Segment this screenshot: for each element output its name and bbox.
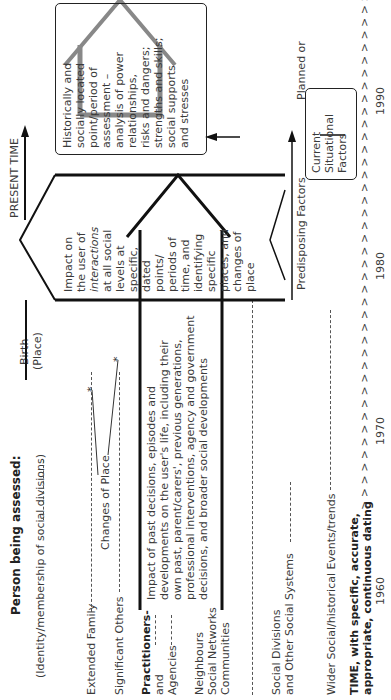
past-impact-line: Impact of past decisions, episodes and xyxy=(145,315,158,600)
interactions-line: points/ xyxy=(153,227,166,292)
assessment-line: Historically and xyxy=(61,10,74,148)
assessment-line: strengths and skills; xyxy=(152,10,165,148)
interactions-line: specific xyxy=(205,227,218,292)
year-1990: 1990 xyxy=(374,87,387,115)
year-1960: 1960 xyxy=(374,577,387,605)
assessment-line: analysis of power xyxy=(113,10,126,148)
interactions-line: dated xyxy=(140,227,153,292)
interactions-line: at all social xyxy=(101,227,114,292)
year-1980: 1980 xyxy=(374,252,387,280)
year-1970: 1970 xyxy=(374,417,387,445)
assessment-line: socially located xyxy=(74,10,87,148)
interactions-line: specific, xyxy=(127,227,140,292)
past-impact-line: own past, parent/carers', previous gener… xyxy=(171,315,184,600)
assessment-line: point/period of xyxy=(87,10,100,148)
interactions-line: time, and xyxy=(179,227,192,292)
situational-line: Factors xyxy=(336,95,349,173)
situational-line: Situational xyxy=(323,95,336,173)
interactions-text: Impact on the user of interactions at al… xyxy=(62,227,257,292)
interactions-line: places, and xyxy=(218,227,231,292)
svg-text:*: * xyxy=(111,356,124,362)
present-time-label: PRESENT TIME xyxy=(8,138,21,218)
interactions-line: Impact on xyxy=(62,227,75,292)
interactions-line: changes of xyxy=(231,227,244,292)
past-impact-line: professional interventions, agency and g… xyxy=(184,315,197,600)
interactions-line: interactions xyxy=(88,227,101,292)
interactions-line: place xyxy=(244,227,257,292)
assessment-line: relationships, xyxy=(126,10,139,148)
assessment-line: social supports xyxy=(165,10,178,148)
assessment-box: Historically and socially located point/… xyxy=(55,3,207,155)
interactions-line: levels at xyxy=(114,227,127,292)
timeline-arrows: > > > > > > > > > > > > > > > > > > > > … xyxy=(358,0,371,510)
interactions-line: the user of xyxy=(75,227,88,292)
situational-line: Current xyxy=(310,95,323,173)
past-impact-text: Impact of past decisions, episodes and d… xyxy=(145,315,210,600)
assessment-line: and stresses xyxy=(178,10,191,148)
interactions-line: identifying xyxy=(192,227,205,292)
svg-text:*: * xyxy=(85,386,98,392)
assessment-line: risks and dangers; xyxy=(139,10,152,148)
past-impact-line: developments on the user's life, includi… xyxy=(158,315,171,600)
situational-factors-box: Current Situational Factors xyxy=(305,88,357,180)
predisposing-factors-label: Predisposing Factors xyxy=(295,177,308,290)
assessment-line: assessment – xyxy=(100,10,113,148)
diagram-canvas: Person being assessed: (Identity/members… xyxy=(0,0,391,700)
past-impact-line: decisions, and broader social developmen… xyxy=(197,315,210,600)
interactions-line: periods of xyxy=(166,227,179,292)
